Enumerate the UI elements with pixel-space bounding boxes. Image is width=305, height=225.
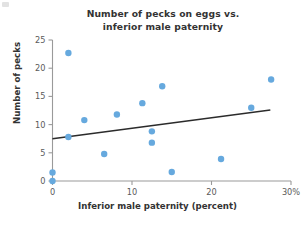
data-point <box>101 151 107 157</box>
x-tick-label: 10 <box>127 187 137 197</box>
data-point <box>114 111 120 117</box>
data-point <box>169 169 175 175</box>
data-point <box>49 169 55 175</box>
axes <box>53 40 292 181</box>
data-point <box>49 178 55 184</box>
plot-area: 0510152025 0102030% <box>0 0 305 225</box>
x-axis-ticks: 0102030% <box>50 181 300 197</box>
y-tick-label: 5 <box>40 148 45 158</box>
trend-line <box>53 110 271 139</box>
data-point <box>218 156 224 162</box>
x-tick-label: 20 <box>206 187 216 197</box>
trend-line-segment <box>53 110 271 139</box>
x-axis-label: Inferior male paternity (percent) <box>30 201 285 211</box>
data-points <box>49 50 274 184</box>
y-tick-label: 20 <box>35 63 45 73</box>
data-point <box>149 139 155 145</box>
data-point <box>159 83 165 89</box>
data-point <box>268 76 274 82</box>
data-point <box>248 104 254 110</box>
y-tick-label: 15 <box>35 91 45 101</box>
data-point <box>65 50 71 56</box>
x-tick-label: 0 <box>50 187 55 197</box>
data-point <box>139 100 145 106</box>
y-tick-label: 25 <box>35 35 45 45</box>
y-tick-label: 0 <box>40 176 45 186</box>
y-axis-ticks: 0510152025 <box>35 35 52 186</box>
scatter-plot-figure: Number of pecks on eggs vs. inferior mal… <box>0 0 305 225</box>
data-point <box>149 128 155 134</box>
data-point <box>81 117 87 123</box>
x-tick-label: 30% <box>282 187 300 197</box>
y-axis-label: Number of pecks <box>12 33 22 133</box>
data-point <box>65 134 71 140</box>
y-tick-label: 10 <box>35 120 45 130</box>
